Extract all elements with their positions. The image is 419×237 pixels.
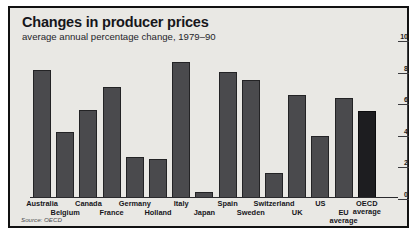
bar-sweden: [242, 80, 260, 199]
bar-france: [103, 87, 121, 198]
bar-canada: [79, 110, 97, 198]
x-label-spain: Spain: [218, 200, 238, 208]
axis-baseline: [30, 197, 398, 198]
x-label-sweden: Sweden: [237, 209, 265, 217]
bar-series: [32, 40, 388, 198]
y-axis: 0246810: [397, 34, 411, 204]
x-axis-labels: AustraliaBelgiumCanadaFranceGermanyHolla…: [10, 199, 411, 227]
y-tick-0: 0: [396, 191, 408, 198]
bar-switzerland: [265, 173, 283, 198]
y-tick-6: 6: [396, 96, 408, 103]
x-label-holland: Holland: [144, 209, 171, 217]
source-note: Source: OECD: [21, 216, 62, 223]
x-label-switzerland: Switzerland: [253, 200, 294, 208]
bar-spain: [219, 72, 237, 198]
y-tick-2: 2: [396, 159, 408, 166]
bar-belgium: [56, 132, 74, 198]
y-tick-10: 10: [396, 33, 408, 40]
x-label-australia: Australia: [26, 200, 58, 208]
chart-title: Changes in producer prices: [22, 14, 397, 30]
plot-area: [32, 40, 388, 198]
x-label-france: France: [99, 209, 123, 217]
x-label-oecd-average: OECDaverage: [353, 200, 381, 216]
bar-oecd-average: [358, 111, 376, 198]
x-label-canada: Canada: [75, 200, 102, 208]
x-label-japan: Japan: [194, 209, 215, 217]
x-label-italy: Italy: [174, 200, 189, 208]
bar-uk: [288, 95, 306, 198]
chart-figure: Changes in producer prices average annua…: [8, 6, 409, 228]
y-tick-4: 4: [396, 128, 408, 135]
bar-italy: [172, 62, 190, 198]
x-label-germany: Germany: [119, 200, 151, 208]
bar-australia: [33, 70, 51, 198]
x-label-us: US: [315, 200, 325, 208]
chart-header: Changes in producer prices average annua…: [22, 14, 397, 43]
bar-eu-average: [335, 98, 353, 198]
bar-germany: [126, 157, 144, 198]
bar-us: [311, 136, 329, 198]
bar-holland: [149, 159, 167, 199]
x-label-uk: UK: [292, 209, 303, 217]
y-tick-8: 8: [396, 65, 408, 72]
